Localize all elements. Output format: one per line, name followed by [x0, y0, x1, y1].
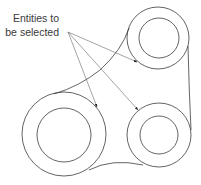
profile-right-line — [188, 46, 191, 130]
circle-bottom-right[interactable] — [127, 103, 191, 167]
annotation-line-1: Entities to — [13, 12, 59, 25]
circle-left[interactable] — [22, 92, 106, 176]
profile-bottom-arc — [89, 162, 143, 170]
arrow-to-left — [68, 32, 97, 107]
profile-top-left-arc — [54, 28, 129, 94]
circle-top-right[interactable] — [127, 7, 189, 69]
annotation-line-2: be selected — [5, 26, 59, 39]
